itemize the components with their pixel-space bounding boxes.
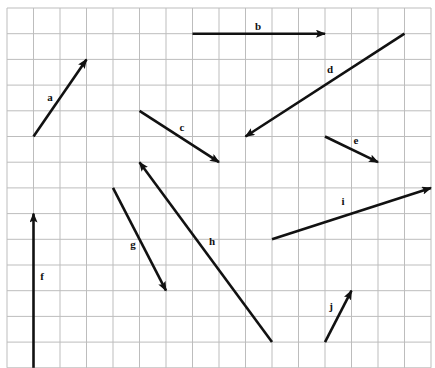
vector-label: c — [180, 121, 185, 133]
vector-arrow-icon — [140, 162, 273, 342]
vector-label: b — [255, 20, 261, 32]
vector-h: h — [140, 162, 273, 342]
vector-label: f — [40, 270, 44, 282]
vector-label: h — [209, 235, 215, 247]
vector-label: a — [47, 91, 53, 103]
vector-label: j — [328, 300, 333, 312]
vector-label: i — [341, 195, 344, 207]
vector-label: e — [354, 134, 359, 146]
vector-diagram: abcdefghij — [0, 0, 435, 368]
grid — [7, 8, 431, 368]
vectors: abcdefghij — [34, 20, 432, 368]
vector-label: d — [327, 63, 333, 75]
vector-b: b — [193, 20, 326, 34]
vector-label: g — [130, 238, 136, 250]
